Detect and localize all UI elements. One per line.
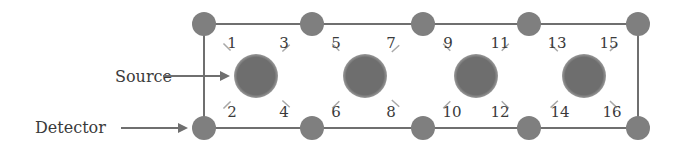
detector-8: [411, 116, 435, 140]
detector-5: [626, 12, 650, 36]
channel-number-2: 2: [227, 103, 237, 121]
detector-1: [192, 12, 216, 36]
channel-number-15: 15: [599, 34, 618, 52]
detector-6: [192, 116, 216, 140]
channel-number-11: 11: [490, 34, 509, 52]
source-callout: Source: [115, 67, 228, 86]
detector-7: [300, 116, 324, 140]
detector-10: [626, 116, 650, 140]
channel-number-8: 8: [386, 103, 396, 121]
detector-2: [300, 12, 324, 36]
source-4: [562, 54, 606, 98]
detector-4: [517, 12, 541, 36]
optode-layout-diagram: 12345678910111213141516 Source Detector: [0, 0, 683, 149]
channel-number-13: 13: [547, 34, 566, 52]
channel-number-5: 5: [331, 34, 341, 52]
source-1: [234, 54, 278, 98]
channel-number-3: 3: [279, 34, 289, 52]
sources: [234, 54, 606, 98]
source-2: [343, 54, 387, 98]
channel-number-10: 10: [442, 103, 461, 121]
channel-number-1: 1: [227, 34, 237, 52]
detector-3: [411, 12, 435, 36]
channel-number-6: 6: [331, 103, 341, 121]
detector-9: [517, 116, 541, 140]
channel-number-7: 7: [386, 34, 396, 52]
detector-label: Detector: [35, 118, 106, 137]
detector-callout: Detector: [35, 118, 186, 137]
channel-number-9: 9: [443, 34, 453, 52]
channel-number-14: 14: [550, 103, 569, 121]
channel-number-12: 12: [490, 103, 509, 121]
channel-number-4: 4: [279, 103, 289, 121]
source-3: [454, 54, 498, 98]
channel-number-16: 16: [602, 103, 621, 121]
